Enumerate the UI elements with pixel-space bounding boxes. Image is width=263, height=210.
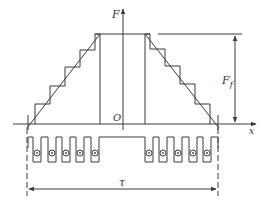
right-diagonal xyxy=(145,34,219,128)
right-staircase xyxy=(145,34,210,124)
origin-label: O xyxy=(113,112,121,123)
left-diagonal xyxy=(27,34,100,128)
stator-slot-profile xyxy=(28,137,218,162)
left-staircase xyxy=(35,34,100,124)
f-axis-label: F xyxy=(111,8,120,21)
mmf-diagram: F x O Ff τ xyxy=(0,0,263,210)
tau-label: τ xyxy=(119,176,126,189)
x-axis-label: x xyxy=(249,126,254,136)
conductors xyxy=(34,150,210,156)
ff-label: Ff xyxy=(221,74,235,89)
